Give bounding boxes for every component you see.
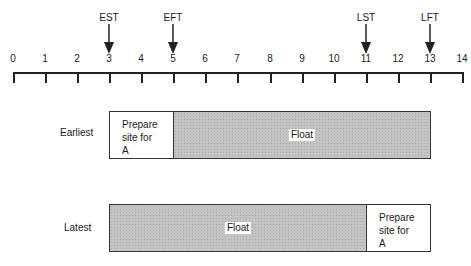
tick bbox=[45, 72, 47, 83]
task-label-line: site for bbox=[379, 224, 415, 237]
tick-label: 7 bbox=[227, 53, 247, 64]
tick bbox=[430, 72, 432, 83]
tick-label: 2 bbox=[67, 53, 87, 64]
marker-eft-label: EFT bbox=[158, 12, 188, 24]
tick bbox=[302, 72, 304, 83]
tick-label: 9 bbox=[292, 53, 312, 64]
latest-task-segment: Prepare site for A bbox=[367, 205, 430, 251]
tick-label: 4 bbox=[131, 53, 151, 64]
earliest-task-segment: Prepare site for A bbox=[110, 112, 174, 158]
task-label-line: Prepare bbox=[122, 118, 158, 131]
latest-float-segment: Float bbox=[110, 205, 367, 251]
tick bbox=[366, 72, 368, 83]
arrow-down-icon bbox=[168, 24, 178, 54]
tick bbox=[141, 72, 143, 83]
marker-lst: LST bbox=[351, 12, 381, 54]
marker-est: EST bbox=[94, 12, 124, 54]
earliest-bar: Prepare site for A Float bbox=[109, 111, 431, 159]
tick bbox=[77, 72, 79, 83]
arrow-down-icon bbox=[104, 24, 114, 54]
tick-label: 13 bbox=[420, 53, 440, 64]
marker-lft-label: LFT bbox=[415, 12, 445, 24]
tick-label: 12 bbox=[388, 53, 408, 64]
task-label-line: site for bbox=[122, 131, 158, 144]
tick bbox=[205, 72, 207, 83]
tick bbox=[270, 72, 272, 83]
tick-label: 6 bbox=[195, 53, 215, 64]
tick-label: 8 bbox=[260, 53, 280, 64]
arrow-down-icon bbox=[361, 24, 371, 54]
tick bbox=[334, 72, 336, 83]
tick bbox=[173, 72, 175, 83]
tick-label: 5 bbox=[163, 53, 183, 64]
latest-bar: Float Prepare site for A bbox=[109, 204, 431, 252]
tick bbox=[398, 72, 400, 83]
task-label: Prepare site for A bbox=[379, 211, 415, 250]
float-label: Float bbox=[289, 129, 315, 141]
tick bbox=[13, 72, 15, 83]
tick-label: 10 bbox=[324, 53, 344, 64]
marker-lst-label: LST bbox=[351, 12, 381, 24]
task-label-line: A bbox=[379, 237, 415, 250]
tick bbox=[237, 72, 239, 83]
tick-label: 0 bbox=[3, 53, 23, 64]
tick-label: 14 bbox=[452, 53, 471, 64]
tick-label: 3 bbox=[99, 53, 119, 64]
tick-label: 1 bbox=[35, 53, 55, 64]
marker-est-label: EST bbox=[94, 12, 124, 24]
row-label-earliest: Earliest bbox=[60, 127, 93, 138]
tick bbox=[109, 72, 111, 83]
task-label-line: A bbox=[122, 144, 158, 157]
task-label: Prepare site for A bbox=[122, 118, 158, 157]
tick bbox=[462, 72, 464, 83]
marker-lft: LFT bbox=[415, 12, 445, 54]
marker-eft: EFT bbox=[158, 12, 188, 54]
arrow-down-icon bbox=[425, 24, 435, 54]
row-label-latest: Latest bbox=[64, 222, 91, 233]
task-label-line: Prepare bbox=[379, 211, 415, 224]
earliest-float-segment: Float bbox=[174, 112, 430, 158]
tick-label: 11 bbox=[356, 53, 376, 64]
float-label: Float bbox=[225, 222, 251, 234]
